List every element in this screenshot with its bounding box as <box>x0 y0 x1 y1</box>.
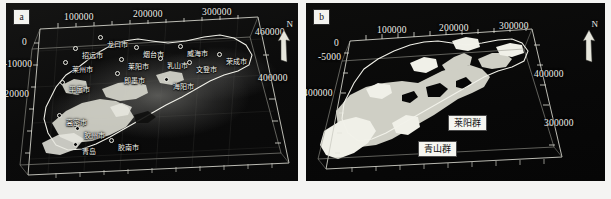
city-marker: 文登市 <box>196 58 217 76</box>
city-marker: 龙口市 <box>107 33 128 51</box>
city-dot <box>187 60 192 65</box>
city-label: 乳山市 <box>167 62 188 70</box>
axis-label-a-top-3: 300000 <box>202 7 232 17</box>
city-label: 胶州市 <box>84 132 105 140</box>
city-marker: 平度市 <box>69 78 90 96</box>
city-dot <box>73 142 78 147</box>
city-label: 龙口市 <box>107 41 128 49</box>
panel-b: 100000 200000 300000 0 -5000 400000 4000… <box>306 3 605 181</box>
city-label: 胶南市 <box>118 144 139 152</box>
city-label: 荣成市 <box>226 58 247 66</box>
axis-label-a-right-1: 460000 <box>255 27 285 37</box>
city-dot <box>164 77 169 82</box>
axis-label-b-top-1: 100000 <box>377 25 407 35</box>
axis-label-a-left-1: 0 <box>22 37 27 47</box>
axis-label-b-left-1: 0 <box>334 38 339 48</box>
axis-label-a-top-1: 100000 <box>64 12 94 22</box>
city-label: 莱州市 <box>72 66 93 74</box>
city-dot <box>217 52 222 57</box>
city-dot <box>60 80 65 85</box>
city-dot <box>109 138 114 143</box>
city-label: 文登市 <box>196 66 217 74</box>
city-dot <box>115 71 120 76</box>
panel-letter-a: a <box>13 9 30 25</box>
city-marker: 乳山市 <box>167 54 188 72</box>
axis-label-b-right-2: 300000 <box>544 118 574 128</box>
axis-label-b-left-2: -5000 <box>318 52 341 62</box>
axis-label-b-right-1: 400000 <box>534 69 564 79</box>
city-label: 平度市 <box>69 86 90 94</box>
city-dot <box>158 56 163 61</box>
city-dot <box>63 60 68 65</box>
city-marker: 青岛 <box>82 140 96 158</box>
city-dot <box>98 35 103 40</box>
axis-label-b-top-2: 200000 <box>439 23 469 33</box>
city-marker: 荣成市 <box>226 50 247 68</box>
unit-label-laiyang: 莱阳群 <box>448 115 487 131</box>
panel-a: 100000 200000 300000 0 -10000 -20000 460… <box>6 3 298 181</box>
city-label: 威海市 <box>187 50 208 58</box>
city-marker: 海阳市 <box>173 75 194 93</box>
axis-label-a-right-2: 400000 <box>258 73 288 83</box>
unit-label-qingshan: 青山群 <box>418 141 457 157</box>
axis-label-b-top-3: 300000 <box>499 21 529 31</box>
city-marker: 即墨市 <box>124 69 145 87</box>
city-label: 即墨市 <box>124 77 145 85</box>
panel-letter-b: b <box>313 9 330 25</box>
city-dot <box>178 44 183 49</box>
city-dot <box>134 45 139 50</box>
figure-root: 100000 200000 300000 0 -10000 -20000 460… <box>0 0 611 199</box>
city-dot <box>73 46 78 51</box>
city-dot <box>119 57 124 62</box>
city-label: 青岛 <box>82 148 96 156</box>
city-dot <box>57 113 62 118</box>
city-marker: 胶南市 <box>118 136 139 154</box>
city-label: 海阳市 <box>173 83 194 91</box>
axis-label-a-left-3: -20000 <box>6 89 29 99</box>
axis-label-a-top-2: 200000 <box>133 9 163 19</box>
city-dot <box>75 126 80 131</box>
city-marker: 莱州市 <box>72 58 93 76</box>
axis-label-a-left-2: -10000 <box>6 59 32 69</box>
axis-label-b-left-3: 400000 <box>306 88 333 98</box>
